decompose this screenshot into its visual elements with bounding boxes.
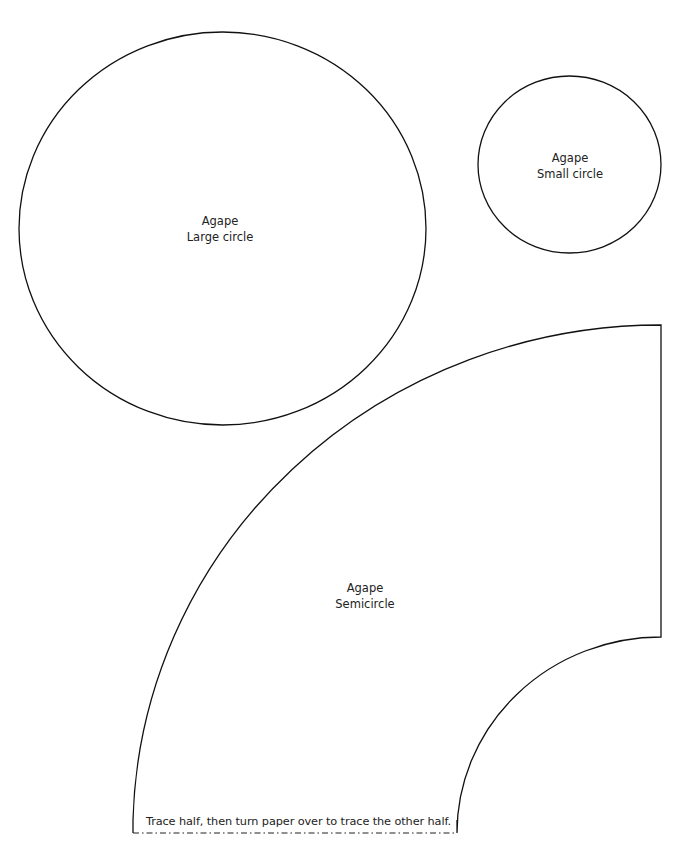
semicircle-name: Semicircle	[335, 596, 394, 612]
large-circle-name: Large circle	[187, 229, 254, 245]
small-circle-brand: Agape	[537, 150, 603, 166]
large-circle-brand: Agape	[187, 213, 254, 229]
semicircle-brand: Agape	[335, 580, 394, 596]
trace-instruction: Trace half, then turn paper over to trac…	[146, 815, 451, 829]
small-circle-label: Agape Small circle	[537, 150, 603, 182]
semicircle-outline	[133, 325, 661, 833]
pattern-sheet	[0, 0, 677, 849]
small-circle-name: Small circle	[537, 166, 603, 182]
large-circle-label: Agape Large circle	[187, 213, 254, 245]
semicircle-label: Agape Semicircle	[335, 580, 394, 612]
